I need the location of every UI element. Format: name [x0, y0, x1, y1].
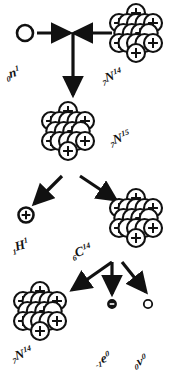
- particle-proton: [19, 208, 34, 223]
- nucleus-n14-bot: [14, 282, 66, 340]
- particle-neutrino: [144, 300, 152, 308]
- arrow-c14-to-neutrino: [122, 262, 146, 292]
- nucleus-n14-top: [110, 4, 162, 62]
- nucleus-c14: [110, 189, 162, 247]
- arrow-n15-to-carbon: [80, 176, 116, 200]
- arrow-c14-to-n14: [72, 262, 112, 290]
- nucleus-n15: [42, 102, 94, 160]
- arrow-n15-to-proton: [34, 176, 62, 204]
- particle-neutron: [17, 25, 33, 41]
- nuclei-group: [14, 4, 162, 340]
- particle-electron: [108, 300, 116, 308]
- particles-group: [17, 25, 152, 308]
